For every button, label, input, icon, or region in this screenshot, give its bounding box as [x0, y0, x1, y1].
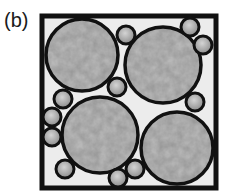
small-particle: [126, 160, 144, 178]
small-particle: [181, 18, 199, 36]
small-particle: [108, 78, 126, 96]
small-particle: [117, 26, 135, 44]
small-particle: [194, 36, 212, 54]
particle-packing-diagram: [0, 0, 226, 196]
small-particle: [186, 93, 204, 111]
small-particle: [43, 108, 61, 126]
small-particle: [43, 128, 61, 146]
small-particle: [54, 90, 72, 108]
small-particle: [56, 160, 74, 178]
small-particle: [109, 169, 127, 187]
